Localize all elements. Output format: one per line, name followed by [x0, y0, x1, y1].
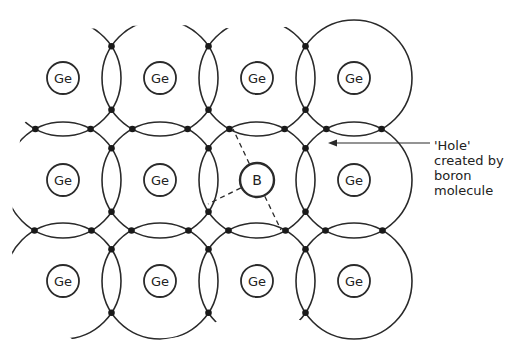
germanium-atom: Ge: [338, 265, 370, 297]
electron-dot: [108, 246, 115, 253]
electron-dot: [108, 310, 115, 317]
atom-symbol: B: [252, 172, 262, 188]
electron-dot: [31, 227, 38, 234]
electron-dot: [205, 43, 212, 50]
electron-dot: [225, 227, 232, 234]
germanium-atom: Ge: [47, 164, 79, 196]
hole-arrow: [328, 140, 430, 147]
annotation-line-3: boron: [434, 168, 504, 183]
germanium-atom: Ge: [338, 62, 370, 94]
electron-dot: [379, 227, 386, 234]
atoms: GeGeGeGeGeGeBGeGeGeGeGe: [47, 62, 370, 297]
germanium-atom: Ge: [144, 265, 176, 297]
electron-dot: [205, 246, 212, 253]
atom-symbol: Ge: [54, 173, 72, 188]
germanium-atom: Ge: [47, 265, 79, 297]
atom-symbol: Ge: [54, 274, 72, 289]
electron-dot: [323, 126, 330, 133]
atom-symbol: Ge: [151, 71, 169, 86]
electron-dot: [302, 43, 309, 50]
electron-dot: [32, 126, 39, 133]
electron-dot: [185, 227, 192, 234]
electron-dot: [88, 227, 95, 234]
atom-symbol: Ge: [151, 274, 169, 289]
electron-dot: [108, 107, 115, 114]
annotation-line-1: 'Hole': [434, 138, 504, 153]
atom-symbol: Ge: [345, 173, 363, 188]
atom-symbol: Ge: [151, 173, 169, 188]
germanium-atom: Ge: [241, 265, 273, 297]
annotation-line-4: molecule: [434, 183, 504, 198]
atom-symbol: Ge: [54, 71, 72, 86]
electron-dot: [108, 145, 115, 152]
germanium-atom: Ge: [144, 62, 176, 94]
boron-atom: B: [240, 163, 274, 197]
arrow-head-icon: [328, 140, 337, 147]
electron-dot: [302, 107, 309, 114]
electron-dot: [302, 145, 309, 152]
atom-symbol: Ge: [248, 274, 266, 289]
electron-dot: [205, 310, 212, 317]
germanium-atom: Ge: [144, 164, 176, 196]
germanium-atom: Ge: [47, 62, 79, 94]
electron-dot: [281, 126, 288, 133]
electron-dot: [108, 43, 115, 50]
electron-dot: [205, 107, 212, 114]
atom-symbol: Ge: [248, 71, 266, 86]
electron-dot: [302, 209, 309, 216]
electron-dot: [322, 227, 329, 234]
electron-dot: [378, 126, 385, 133]
electron-dot: [108, 209, 115, 216]
electron-dot: [205, 145, 212, 152]
electron-dot: [302, 310, 309, 317]
electron-dot: [282, 227, 289, 234]
annotation-line-2: created by: [434, 153, 504, 168]
germanium-atom: Ge: [241, 62, 273, 94]
electron-dot: [184, 126, 191, 133]
electron-dot: [205, 209, 212, 216]
electron-dot: [128, 227, 135, 234]
electron-dot: [129, 126, 136, 133]
electron-dot: [302, 246, 309, 253]
atom-symbol: Ge: [345, 71, 363, 86]
electron-dot: [87, 126, 94, 133]
germanium-atom: Ge: [338, 164, 370, 196]
electron-dot: [226, 126, 233, 133]
atom-symbol: Ge: [345, 274, 363, 289]
hole-annotation: 'Hole' created by boron molecule: [434, 138, 504, 198]
